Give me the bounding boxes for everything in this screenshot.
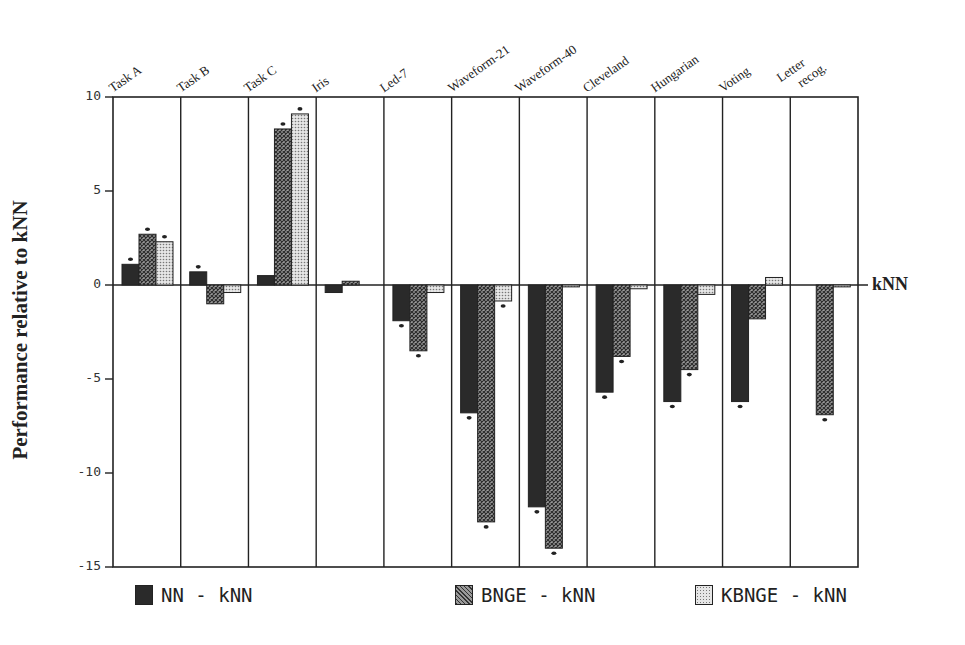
bar (156, 242, 173, 285)
bars-group (122, 107, 850, 555)
bar (427, 285, 444, 293)
legend-item-bnge: BNGE - kNN (455, 584, 595, 606)
bar (630, 285, 647, 289)
y-tick-label: 10 (61, 88, 101, 103)
legend-item-kbnge: KBNGE - kNN (695, 584, 847, 606)
y-axis-label: Performance relative to kNN (8, 200, 33, 459)
bar (274, 129, 291, 285)
bar (461, 285, 478, 413)
bar (596, 285, 613, 392)
bar (207, 285, 224, 304)
bar (681, 285, 698, 370)
legend-swatch-solid-icon (135, 585, 153, 605)
bar (613, 285, 630, 356)
bar (478, 285, 495, 522)
y-tick-label: -5 (61, 370, 101, 385)
bar (766, 277, 783, 285)
bar (816, 285, 833, 415)
y-tick-label: 0 (61, 276, 101, 291)
y-tick-label: 5 (61, 182, 101, 197)
bar (325, 285, 342, 293)
bar (342, 281, 359, 285)
bar (291, 114, 308, 285)
legend-item-nn: NN - kNN (135, 584, 253, 606)
bar (495, 285, 512, 301)
legend-swatch-dotted-icon (695, 585, 713, 605)
legend-label: BNGE - kNN (481, 584, 595, 606)
bar (528, 285, 545, 507)
legend-swatch-crosshatch-icon (455, 585, 473, 605)
bar (224, 285, 241, 293)
y-tick-label: -15 (61, 558, 101, 573)
bar (139, 234, 156, 285)
bar (257, 276, 274, 285)
bar (833, 285, 850, 287)
bar (190, 272, 207, 285)
bar (732, 285, 749, 402)
bar (664, 285, 681, 402)
legend-label: KBNGE - kNN (721, 584, 847, 606)
y-tick-label: -10 (61, 464, 101, 479)
bar-chart (0, 0, 965, 645)
bar (122, 264, 139, 285)
bar (393, 285, 410, 321)
legend-label: NN - kNN (161, 584, 253, 606)
bar (410, 285, 427, 351)
bar (562, 285, 579, 287)
knn-reference-label: kNN (872, 274, 908, 295)
bar (698, 285, 715, 294)
bar (749, 285, 766, 319)
bar (545, 285, 562, 548)
